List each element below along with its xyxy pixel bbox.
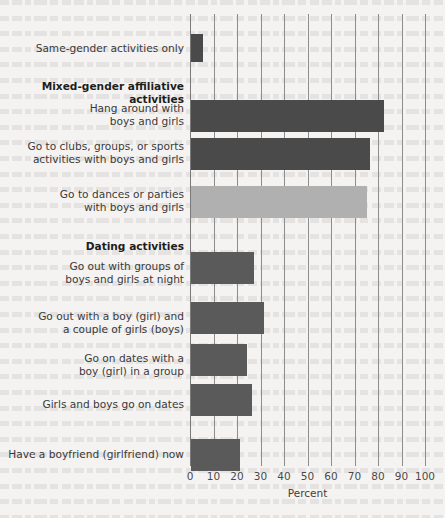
category-label: Have a boyfriend (girlfriend) now: [0, 448, 184, 461]
category-group-header: Dating activities: [0, 240, 184, 253]
x-tick-label: 30: [254, 469, 267, 483]
category-label: Hang around with boys and girls: [0, 102, 184, 127]
bar: [191, 186, 367, 218]
x-tick-label: 70: [348, 469, 361, 483]
x-tick-label: 40: [277, 469, 290, 483]
x-tick-label: 100: [415, 469, 435, 483]
bar: [191, 439, 240, 471]
category-labels: Same-gender activities onlyMixed-gender …: [0, 14, 184, 466]
category-label: Go to clubs, groups, or sports activitie…: [0, 140, 184, 165]
gridline-80: [378, 14, 379, 466]
gridline-100: [425, 14, 426, 466]
x-tick-label: 20: [230, 469, 243, 483]
plot-area: [190, 14, 425, 466]
x-tick-label: 10: [207, 469, 220, 483]
gridline-90: [402, 14, 403, 466]
x-tick-label: 80: [371, 469, 384, 483]
category-label: Go to dances or parties with boys and gi…: [0, 188, 184, 213]
category-label: Go on dates with a boy (girl) in a group: [0, 352, 184, 377]
category-label: Go out with a boy (girl) and a couple of…: [0, 310, 184, 335]
gridline-40: [284, 14, 285, 466]
x-tick-label: 90: [395, 469, 408, 483]
bar: [191, 384, 252, 416]
gridline-50: [308, 14, 309, 466]
bar: [191, 34, 203, 62]
bar: [191, 252, 254, 284]
bar: [191, 100, 384, 132]
x-tick-label: 0: [187, 469, 194, 483]
horizontal-bar-chart: 0102030405060708090100 Percent Same-gend…: [0, 0, 445, 518]
bar: [191, 302, 264, 334]
x-tick-label: 50: [301, 469, 314, 483]
gridline-60: [331, 14, 332, 466]
category-label: Go out with groups of boys and girls at …: [0, 260, 184, 285]
bar: [191, 344, 247, 376]
x-axis-tick-labels: 0102030405060708090100: [190, 469, 425, 483]
gridline-30: [261, 14, 262, 466]
category-label: Girls and boys go on dates: [0, 398, 184, 411]
x-axis-title: Percent: [190, 487, 425, 499]
x-tick-label: 60: [324, 469, 337, 483]
gridline-70: [355, 14, 356, 466]
bar: [191, 138, 370, 170]
category-label: Same-gender activities only: [0, 42, 184, 55]
